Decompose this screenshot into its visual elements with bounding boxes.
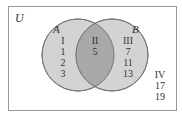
set-b-label: B — [132, 23, 139, 35]
set-a-label: A — [52, 23, 60, 35]
region-value: 17 — [155, 80, 165, 91]
region-value: 3 — [61, 68, 66, 79]
region-value: 11 — [123, 57, 133, 68]
region-value: II — [92, 35, 99, 46]
region-value: 5 — [93, 46, 98, 57]
region-value: 2 — [61, 57, 66, 68]
region-value: III — [123, 35, 133, 46]
region-iv: IV1719 — [155, 69, 166, 102]
region-value: 7 — [126, 46, 131, 57]
region-iii: III71113 — [123, 35, 133, 79]
region-value: 13 — [123, 68, 133, 79]
region-value: IV — [155, 69, 166, 80]
region-ii: II5 — [92, 35, 99, 57]
region-value: 1 — [61, 46, 66, 57]
region-value: 19 — [155, 91, 165, 102]
region-value: I — [61, 35, 64, 46]
venn-diagram: U A B I123II5III71113IV1719 — [0, 0, 182, 121]
universe-label: U — [15, 11, 25, 25]
